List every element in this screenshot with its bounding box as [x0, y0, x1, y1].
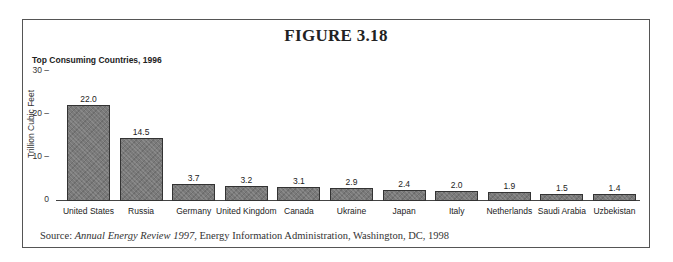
- bar: [435, 191, 478, 201]
- y-tick-label: 10 –: [23, 151, 49, 161]
- y-tick-label: 20 –: [23, 108, 49, 118]
- bar-value-label: 3.2: [216, 175, 276, 185]
- bar: [330, 188, 373, 201]
- bar: [383, 190, 426, 201]
- figure-frame: FIGURE 3.18 Top Consuming Countries, 199…: [22, 19, 650, 248]
- bar-value-label: 3.7: [164, 173, 224, 183]
- x-tick-label: Uzbekistan: [575, 206, 655, 216]
- bar: [593, 194, 636, 201]
- bar-value-label: 2.0: [427, 180, 487, 190]
- bar: [67, 105, 110, 201]
- bar-value-label: 2.9: [322, 177, 382, 187]
- source-citation: Source: Annual Energy Review 1997, Energ…: [40, 230, 449, 241]
- bar-value-label: 1.5: [532, 183, 592, 193]
- bar-value-label: 2.4: [374, 179, 434, 189]
- bar: [540, 194, 583, 201]
- bar-value-label: 1.9: [479, 181, 539, 191]
- y-tick-label: 30 –: [23, 65, 49, 75]
- chart-title: Top Consuming Countries, 1996: [32, 55, 162, 65]
- bar: [488, 192, 531, 201]
- bar: [277, 187, 320, 201]
- bar-value-label: 3.1: [269, 176, 329, 186]
- source-prefix: Source:: [40, 230, 75, 241]
- figure-label: FIGURE 3.18: [23, 26, 649, 46]
- bar: [120, 138, 163, 201]
- bar: [172, 184, 215, 201]
- source-title: Annual Energy Review 1997: [75, 230, 194, 241]
- bar-value-label: 1.4: [585, 183, 645, 193]
- y-axis-label: Trillion Cubic Feet: [26, 90, 36, 158]
- bar-value-label: 14.5: [111, 127, 171, 137]
- bar: [225, 186, 268, 201]
- bar-value-label: 22.0: [59, 94, 119, 104]
- source-rest: , Energy Information Administration, Was…: [194, 230, 449, 241]
- y-tick-label: 0: [23, 194, 49, 204]
